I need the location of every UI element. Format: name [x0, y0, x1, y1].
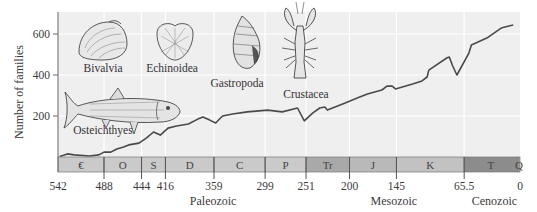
- period-label: K: [426, 159, 434, 171]
- period-q: Q: [515, 157, 523, 172]
- period-d: D: [165, 157, 214, 172]
- x-tick-label: 0: [517, 180, 523, 192]
- period-label: P: [283, 159, 289, 171]
- x-tick-label: 542: [49, 180, 67, 192]
- fossil-family-diversity-chart: BivalviaEchinoideaGastropodaCrustaceaOst…: [0, 0, 537, 212]
- period-label: Tr: [323, 159, 333, 171]
- x-tick-label: 65.5: [454, 180, 474, 192]
- period-p: P: [265, 157, 306, 172]
- period-o: O: [104, 157, 142, 172]
- x-tick-label: 145: [388, 180, 406, 192]
- x-tick-label: 200: [341, 180, 359, 192]
- geologic-period-bar: €OSDCPTrJKTQ: [58, 157, 523, 172]
- taxon-label-osteichthyes: Osteichthyes: [73, 124, 133, 137]
- period-label: D: [186, 159, 194, 171]
- period-label: S: [150, 159, 156, 171]
- y-axis-ticks: 200400600: [33, 28, 58, 122]
- taxon-label-crustacea: Crustacea: [283, 88, 328, 100]
- period-j: J: [350, 157, 397, 172]
- y-tick-label: 400: [33, 69, 51, 81]
- x-tick-label: 299: [257, 180, 275, 192]
- taxon-label-bivalvia: Bivalvia: [84, 62, 123, 74]
- era-label-paleozoic: Paleozoic: [190, 194, 237, 208]
- y-axis-label: Number of families: [12, 45, 26, 139]
- period-s: S: [142, 157, 166, 172]
- period-c: C: [214, 157, 265, 172]
- period-label: €: [78, 159, 84, 171]
- y-tick-label: 200: [33, 110, 51, 122]
- period-label: Q: [515, 159, 523, 171]
- period-€: €: [58, 157, 104, 172]
- x-tick-label: 444: [133, 180, 151, 192]
- x-tick-label: 488: [95, 180, 113, 192]
- x-tick-label: 251: [297, 180, 315, 192]
- era-label-cenozoic: Cenozoic: [472, 194, 517, 208]
- y-tick-label: 600: [33, 28, 51, 40]
- period-label: T: [488, 159, 495, 171]
- taxon-label-gastropoda: Gastropoda: [210, 77, 263, 90]
- x-tick-label: 359: [205, 180, 223, 192]
- era-label-mesozoic: Mesozoic: [371, 194, 418, 208]
- era-labels: PaleozoicMesozoicCenozoic: [190, 194, 517, 208]
- period-label: J: [371, 159, 376, 171]
- period-tr: Tr: [306, 157, 349, 172]
- period-k: K: [396, 157, 464, 172]
- period-t: T: [464, 157, 518, 172]
- taxon-label-echinoidea: Echinoidea: [146, 62, 198, 74]
- x-tick-label: 416: [157, 180, 175, 192]
- period-label: O: [119, 159, 127, 171]
- period-label: C: [236, 159, 243, 171]
